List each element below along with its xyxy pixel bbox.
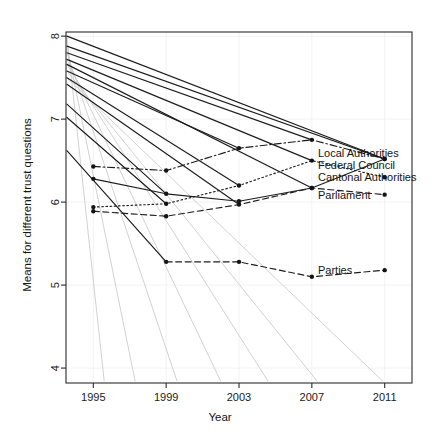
data-point bbox=[237, 146, 241, 150]
data-point bbox=[91, 177, 95, 181]
data-point bbox=[237, 183, 241, 187]
x-tick-label: 2003 bbox=[227, 391, 251, 403]
y-tick-label: 5 bbox=[49, 282, 61, 288]
trust-means-line-chart: 19951999200320072011 45678 Local Authori… bbox=[0, 0, 437, 448]
data-point bbox=[164, 192, 168, 196]
chart-container: 19951999200320072011 45678 Local Authori… bbox=[0, 0, 437, 448]
x-tick-label: 1999 bbox=[154, 391, 178, 403]
data-point bbox=[164, 168, 168, 172]
data-point bbox=[91, 164, 95, 168]
x-tick-label: 1995 bbox=[81, 391, 105, 403]
data-point bbox=[310, 158, 314, 162]
y-tick-label: 4 bbox=[49, 365, 61, 371]
x-axis-title: Year bbox=[208, 411, 231, 423]
legend-label-local-authorities: Local Authorities bbox=[318, 147, 399, 159]
legend-label-parliament: Parliament bbox=[318, 189, 371, 201]
y-axis-title: Means for different trust questions bbox=[21, 118, 33, 292]
data-point bbox=[237, 260, 241, 264]
x-tick-label: 2011 bbox=[373, 391, 397, 403]
data-point bbox=[382, 268, 386, 272]
data-point bbox=[237, 202, 241, 206]
data-point bbox=[164, 202, 168, 206]
legend-label-parties: Parties bbox=[318, 264, 353, 276]
legend-label-cantonal-authorities: Cantonal Authorities bbox=[318, 171, 417, 183]
data-point bbox=[164, 260, 168, 264]
data-point bbox=[91, 205, 95, 209]
data-point bbox=[310, 275, 314, 279]
data-point bbox=[164, 214, 168, 218]
y-tick-label: 7 bbox=[49, 116, 61, 122]
x-tick-label: 2007 bbox=[300, 391, 324, 403]
data-point bbox=[310, 138, 314, 142]
legend-label-federal-council: Federal Council bbox=[318, 159, 395, 171]
data-point bbox=[91, 209, 95, 213]
data-point bbox=[382, 192, 386, 196]
y-tick-label: 8 bbox=[49, 33, 61, 39]
y-tick-label: 6 bbox=[49, 199, 61, 205]
data-point bbox=[310, 186, 314, 190]
